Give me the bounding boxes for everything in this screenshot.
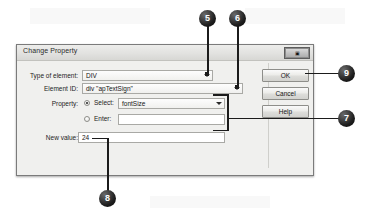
dialog-title: Change Property [23, 47, 77, 54]
property-select-combobox[interactable]: fontSize [118, 98, 225, 109]
close-icon[interactable]: ▣ [286, 49, 308, 57]
cancel-button[interactable]: Cancel [262, 87, 309, 100]
dialog-titlebar[interactable]: Change Property ▣ [17, 45, 313, 61]
callout-9-leader-line [305, 73, 339, 75]
property-select-value: fontSize [122, 100, 146, 107]
property-select-radio-label: Select: [94, 99, 114, 106]
property-enter-radio-label: Enter: [94, 115, 111, 122]
element-id-label: Element ID: [22, 85, 78, 92]
new-value-label: New value: [22, 134, 78, 141]
callout-5-endpoint [205, 72, 209, 76]
scan-artifact-bottom [150, 196, 270, 208]
element-id-combobox[interactable]: div "apTextSign" [82, 83, 243, 94]
property-enter-radio[interactable] [84, 116, 90, 122]
callout-8-leader-line-vertical [107, 138, 109, 191]
callout-badge-5: 5 [199, 10, 216, 27]
callout-6-leader-line [237, 26, 239, 87]
property-enter-input[interactable] [118, 114, 225, 125]
callout-badge-8: 8 [99, 190, 116, 207]
scan-artifact-top-right [245, 8, 345, 24]
element-id-value: div "apTextSign" [86, 85, 133, 92]
callout-7-bracket-top [213, 94, 228, 96]
callout-badge-9: 9 [338, 65, 355, 82]
scan-artifact-top-left [30, 8, 150, 24]
type-of-element-label: Type of element: [22, 72, 78, 79]
callout-7-bracket-bottom [213, 130, 228, 132]
type-of-element-value: DIV [86, 72, 97, 79]
property-select-radio[interactable] [84, 100, 90, 106]
window-controls-group[interactable]: ▣ [284, 47, 310, 59]
new-value-text: 24 [82, 133, 89, 143]
callout-7-bracket-spine [227, 94, 229, 131]
callout-7-leader-line [228, 118, 339, 120]
callout-badge-7: 7 [338, 110, 355, 127]
chevron-down-icon[interactable] [216, 102, 222, 105]
property-label: Property: [22, 100, 78, 107]
help-button[interactable]: Help [262, 105, 309, 118]
ok-button[interactable]: OK [262, 69, 309, 82]
type-of-element-combobox[interactable]: DIV [82, 70, 213, 81]
callout-badge-6: 6 [229, 10, 246, 27]
callout-6-endpoint [235, 85, 239, 89]
callout-5-leader-line [207, 26, 209, 74]
